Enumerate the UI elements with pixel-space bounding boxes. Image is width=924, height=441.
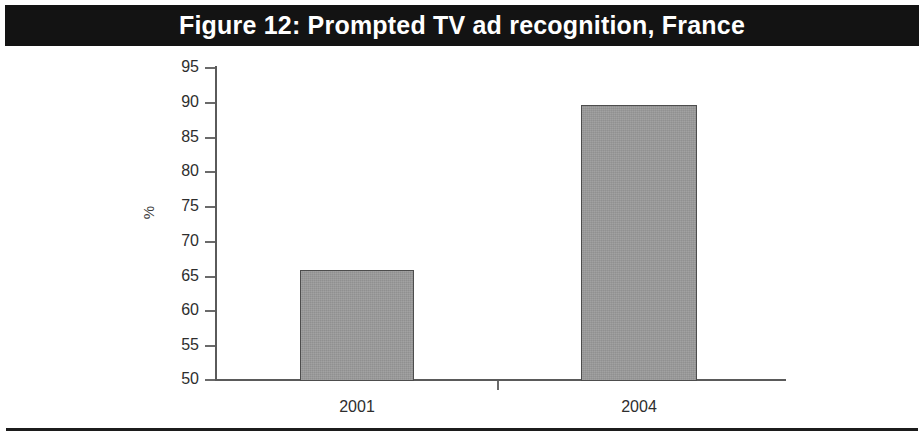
chart-plot-area: % 95 90 85 80 75 70 65 60 55 50 2001 200… xyxy=(0,46,924,401)
figure-container: Figure 12: Prompted TV ad recognition, F… xyxy=(0,0,924,441)
y-axis-line xyxy=(215,66,217,381)
x-axis-tick-label: 2004 xyxy=(579,398,699,416)
y-axis-label: % xyxy=(140,198,157,228)
y-axis-tick xyxy=(205,206,215,208)
y-axis-tick-label: 90 xyxy=(155,94,199,110)
y-axis-tick xyxy=(205,171,215,173)
y-axis-tick-label: 85 xyxy=(155,129,199,145)
y-axis-tick xyxy=(205,345,215,347)
y-axis-tick xyxy=(205,67,215,69)
y-axis-tick xyxy=(205,379,215,381)
page-title: Figure 12: Prompted TV ad recognition, F… xyxy=(179,11,745,40)
x-axis-tick-label: 2001 xyxy=(297,398,417,416)
figure-title-banner: Figure 12: Prompted TV ad recognition, F… xyxy=(5,5,919,46)
y-axis-tick xyxy=(205,137,215,139)
y-axis-tick-label: 60 xyxy=(155,302,199,318)
y-axis-tick-label: 80 xyxy=(155,163,199,179)
y-axis-tick xyxy=(205,276,215,278)
y-axis-tick-label: 95 xyxy=(155,59,199,75)
x-axis-tick xyxy=(497,381,499,390)
y-axis-tick xyxy=(205,102,215,104)
bar-2001[interactable] xyxy=(300,270,414,381)
footer-divider xyxy=(6,428,918,431)
y-axis-tick-label: 55 xyxy=(155,337,199,353)
y-axis-tick xyxy=(205,310,215,312)
y-axis-tick-label: 65 xyxy=(155,268,199,284)
y-axis-tick-label: 50 xyxy=(155,371,199,387)
y-axis-tick-label: 75 xyxy=(155,198,199,214)
bar-2004[interactable] xyxy=(581,105,697,381)
y-axis-tick xyxy=(205,241,215,243)
y-axis-tick-label: 70 xyxy=(155,233,199,249)
